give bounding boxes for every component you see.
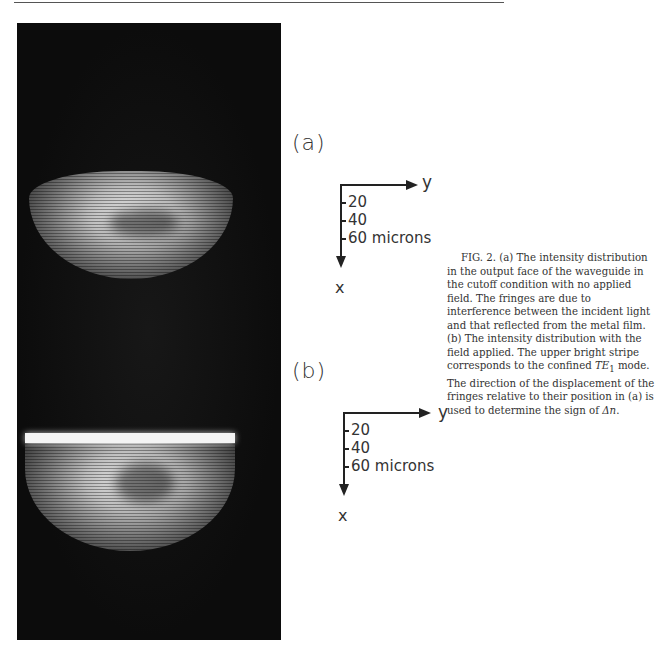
caption-symbol: Δn	[602, 405, 616, 416]
tick-label: 60 microns	[348, 231, 431, 246]
x-axis-label: x	[335, 278, 344, 297]
tick-label: 20	[348, 195, 367, 210]
x-axis-label: x	[338, 506, 347, 525]
y-arrow-icon	[419, 408, 431, 418]
tick-mark	[343, 448, 349, 450]
axes-diagram-b: y 20 40 60 microns x	[343, 412, 543, 532]
caption-text-3: .	[616, 405, 619, 416]
tick-mark	[340, 202, 346, 204]
tick-mark	[343, 430, 349, 432]
intensity-pattern-a	[29, 171, 233, 279]
y-axis-line	[343, 412, 421, 414]
caption-mode: TE	[595, 360, 609, 371]
panel-label-a: (a)	[292, 130, 326, 155]
x-arrow-icon	[339, 484, 349, 496]
micrograph-photo	[17, 23, 281, 640]
tick-mark	[343, 466, 349, 468]
y-arrow-icon	[406, 180, 418, 190]
panel-label-b: (b)	[292, 358, 326, 383]
tick-mark	[340, 238, 346, 240]
dark-region	[115, 463, 175, 503]
x-arrow-icon	[336, 256, 346, 268]
y-axis-line	[340, 184, 408, 186]
dark-region	[109, 209, 179, 237]
caption-text-1: (a) The intensity distribution in the ou…	[447, 252, 650, 371]
tick-mark	[340, 220, 346, 222]
header-rule	[14, 2, 504, 3]
intensity-pattern-b	[25, 433, 235, 551]
y-axis-label: y	[422, 172, 432, 192]
tick-label: 20	[351, 423, 370, 438]
tick-label: 40	[351, 441, 370, 456]
te1-bright-stripe	[25, 433, 235, 443]
caption-lead: FIG. 2.	[461, 252, 496, 263]
tick-label: 60 microns	[351, 459, 434, 474]
figure-caption: FIG. 2. (a) The intensity distribution i…	[447, 251, 655, 417]
tick-label: 40	[348, 213, 367, 228]
